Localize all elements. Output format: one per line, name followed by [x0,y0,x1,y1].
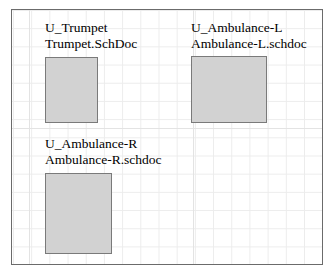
schematic-canvas[interactable]: U_Trumpet Trumpet.SchDoc U_Ambulance-L A… [0,0,335,273]
sheet-symbol-body[interactable] [45,173,112,254]
sheet-symbol-designator[interactable]: U_Trumpet [45,20,108,35]
sheet-symbol-body[interactable] [45,57,98,123]
sheet-symbol-filename[interactable]: Ambulance-L.schdoc [191,36,307,51]
sheet-symbol-designator[interactable]: U_Ambulance-R [45,136,137,151]
sheet-symbol-designator[interactable]: U_Ambulance-L [191,20,282,35]
grid-line-horizontal [11,128,323,129]
grid-line-vertical [29,9,30,265]
sheet-symbol-filename[interactable]: Ambulance-R.schdoc [45,152,162,167]
sheet-symbol-filename[interactable]: Trumpet.SchDoc [45,36,137,51]
sheet-symbol-body[interactable] [191,56,267,123]
